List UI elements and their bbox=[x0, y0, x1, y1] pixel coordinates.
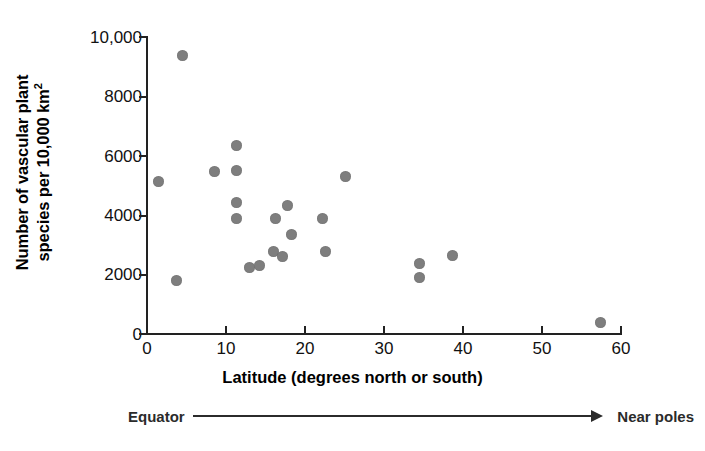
data-point bbox=[414, 272, 425, 283]
annotation-label-near-poles: Near poles bbox=[617, 408, 694, 425]
data-point bbox=[231, 140, 242, 151]
x-axis-title: Latitude (degrees north or south) bbox=[0, 368, 705, 387]
data-point bbox=[595, 317, 606, 328]
right-arrow-icon bbox=[193, 410, 604, 422]
data-point bbox=[254, 260, 265, 271]
data-point bbox=[277, 251, 288, 262]
data-point bbox=[231, 165, 242, 176]
data-point bbox=[286, 229, 297, 240]
data-point bbox=[171, 275, 182, 286]
data-point bbox=[317, 213, 328, 224]
data-point bbox=[340, 171, 351, 182]
data-point bbox=[209, 166, 220, 177]
data-point bbox=[414, 258, 425, 269]
gradient-annotation: Equator Near poles bbox=[128, 404, 694, 428]
data-point bbox=[282, 200, 293, 211]
data-point bbox=[320, 246, 331, 257]
data-point bbox=[153, 176, 164, 187]
annotation-label-equator: Equator bbox=[128, 408, 185, 425]
data-point bbox=[177, 50, 188, 61]
data-point bbox=[447, 250, 458, 261]
scatter-plot-figure: Number of vascular plant species per 10,… bbox=[0, 0, 705, 451]
data-point bbox=[231, 197, 242, 208]
data-point bbox=[270, 213, 281, 224]
data-point bbox=[231, 213, 242, 224]
